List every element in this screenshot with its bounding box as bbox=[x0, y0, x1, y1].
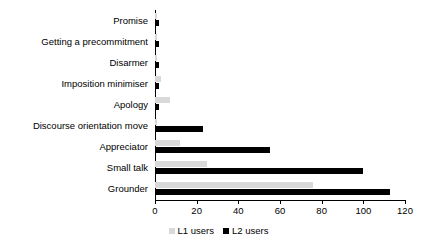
bar-l2 bbox=[155, 41, 159, 47]
bar-l1 bbox=[155, 55, 157, 61]
category-label: Getting a precommitment bbox=[0, 37, 148, 47]
x-tick-mark bbox=[155, 200, 156, 204]
category-label: Apology bbox=[0, 100, 148, 110]
legend-item: L2 users bbox=[223, 226, 268, 236]
bar-l2 bbox=[155, 20, 159, 26]
bar-l1 bbox=[155, 140, 180, 146]
plot-area bbox=[155, 10, 405, 200]
legend-label: L1 users bbox=[178, 226, 214, 236]
category-label: Discourse orientation move bbox=[0, 121, 148, 131]
bar-l2 bbox=[155, 62, 159, 68]
x-tick-label: 20 bbox=[182, 205, 212, 216]
bar-l2 bbox=[155, 104, 159, 110]
bar-l2 bbox=[155, 147, 270, 153]
bar-group bbox=[155, 179, 405, 200]
bar-l1 bbox=[155, 182, 313, 188]
category-label: Imposition minimiser bbox=[0, 79, 148, 89]
bar-group bbox=[155, 10, 405, 31]
x-tick-mark bbox=[197, 200, 198, 204]
bar-chart: PromiseGetting a precommitmentDisarmerIm… bbox=[0, 0, 437, 249]
bar-l1 bbox=[155, 161, 207, 167]
bar-l2 bbox=[155, 126, 203, 132]
bar-group bbox=[155, 73, 405, 94]
category-label: Promise bbox=[0, 16, 148, 26]
legend-swatch-icon bbox=[223, 228, 229, 234]
bar-l1 bbox=[155, 34, 157, 40]
legend-label: L2 users bbox=[232, 226, 268, 236]
x-tick-mark bbox=[322, 200, 323, 204]
x-tick-mark bbox=[280, 200, 281, 204]
legend-swatch-icon bbox=[169, 228, 175, 234]
x-tick-label: 40 bbox=[223, 205, 253, 216]
category-label: Small talk bbox=[0, 163, 148, 173]
bar-l2 bbox=[155, 168, 363, 174]
x-tick-label: 100 bbox=[348, 205, 378, 216]
category-label: Disarmer bbox=[0, 58, 148, 68]
x-tick-mark bbox=[405, 200, 406, 204]
bar-l2 bbox=[155, 83, 159, 89]
bar-group bbox=[155, 116, 405, 137]
bar-l1 bbox=[155, 119, 157, 125]
category-label: Appreciator bbox=[0, 142, 148, 152]
bar-l1 bbox=[155, 97, 170, 103]
bar-l1 bbox=[155, 13, 157, 19]
bar-l1 bbox=[155, 76, 161, 82]
legend-item: L1 users bbox=[169, 226, 214, 236]
x-tick-label: 60 bbox=[265, 205, 295, 216]
chart-legend: L1 usersL2 users bbox=[0, 226, 437, 236]
x-tick-label: 0 bbox=[140, 205, 170, 216]
x-tick-mark bbox=[238, 200, 239, 204]
bar-group bbox=[155, 158, 405, 179]
bar-group bbox=[155, 31, 405, 52]
x-tick-label: 120 bbox=[390, 205, 420, 216]
bar-l2 bbox=[155, 189, 390, 195]
x-tick-label: 80 bbox=[307, 205, 337, 216]
bar-group bbox=[155, 94, 405, 115]
bar-group bbox=[155, 137, 405, 158]
x-tick-mark bbox=[363, 200, 364, 204]
category-label: Grounder bbox=[0, 184, 148, 194]
bar-group bbox=[155, 52, 405, 73]
